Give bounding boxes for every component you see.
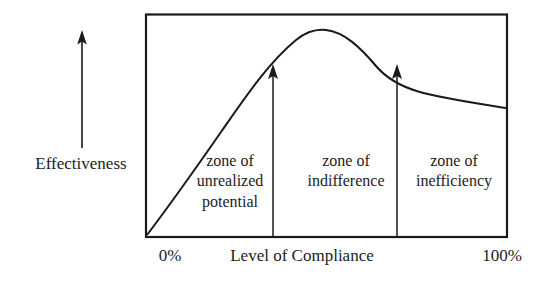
y-axis-title: Effectiveness xyxy=(18,153,144,175)
zone-label-unrealized-potential: zone of unrealized potential xyxy=(184,151,276,212)
zone-label-line: potential xyxy=(184,192,276,212)
zone-label-line: inefficiency xyxy=(400,171,508,191)
zone-label-line: zone of xyxy=(184,151,276,171)
zone-label-inefficiency: zone of inefficiency xyxy=(400,151,508,192)
zone-label-line: zone of xyxy=(292,151,400,171)
x-axis-max-tick-label: 100% xyxy=(474,245,530,267)
zone-label-line: zone of xyxy=(400,151,508,171)
zone-label-indifference: zone of indifference xyxy=(292,151,400,192)
zone-divider-arrow-2 xyxy=(392,64,402,236)
zone-label-line: unrealized xyxy=(184,171,276,191)
x-axis-min-tick-label: 0% xyxy=(150,245,190,267)
x-axis-title: Level of Compliance xyxy=(226,245,378,267)
compliance-effectiveness-figure: Effectiveness 0% Level of Compliance 100… xyxy=(0,0,548,288)
y-axis-arrow xyxy=(77,30,87,148)
zone-label-line: indifference xyxy=(292,171,400,191)
